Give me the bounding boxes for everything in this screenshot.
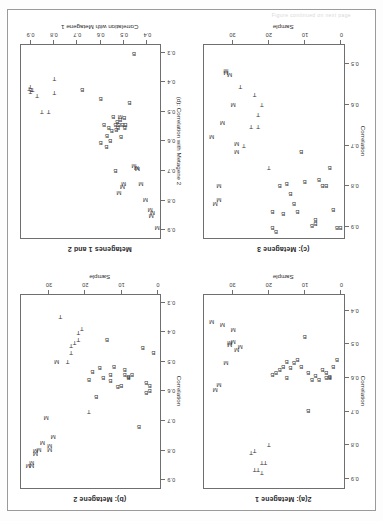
y-axis-tick	[162, 361, 166, 362]
y-axis-label-wrap: Correlation	[357, 294, 367, 489]
y-axis-tick	[345, 104, 349, 105]
data-point-B: B	[274, 228, 278, 235]
data-point-B: B	[108, 372, 112, 379]
data-point-M: M	[26, 463, 31, 470]
x-axis-tick-label: 0.6	[97, 32, 105, 38]
x-axis-tick	[121, 290, 122, 294]
data-point-B: B	[278, 182, 282, 189]
data-point-M: M	[40, 439, 45, 446]
data-point-M: M	[231, 102, 236, 109]
data-point-B: B	[98, 96, 102, 103]
plot-area: BBBBBBBBBBBBBBBBBBBBBBBBTTTTTTTTTTMMMMMM…	[20, 44, 162, 239]
x-axis-tick	[340, 290, 341, 294]
data-point-M: M	[118, 113, 123, 120]
data-point-T: T	[260, 460, 264, 467]
y-axis-tick	[162, 200, 166, 201]
data-point-B: B	[126, 375, 130, 382]
x-axis-tick-label: 20	[82, 282, 88, 288]
data-point-M: M	[231, 326, 236, 333]
data-point-T: T	[267, 164, 271, 171]
y-axis-tick	[162, 81, 166, 82]
data-point-T: T	[66, 359, 70, 366]
data-point-B: B	[112, 363, 116, 370]
y-axis-tick	[345, 63, 349, 64]
data-point-B: B	[285, 375, 289, 382]
plot-area: BBBBBBBBBBBBBBBBBBBBBBBTTTTTTTTMMMMMMMMM…	[204, 294, 346, 489]
y-axis-tick	[162, 52, 166, 53]
data-point-M: M	[216, 182, 221, 189]
x-axis-tick	[340, 40, 341, 44]
data-point-M: M	[148, 207, 153, 214]
data-point-M: M	[220, 120, 225, 127]
data-point-B: B	[331, 363, 335, 370]
scatter-panel-d: Metagenes 1 and 2BBBBBBBBBBBBBBBBBBBBBBB…	[8, 10, 192, 260]
data-point-T: T	[76, 337, 80, 344]
x-axis-tick-label: 0.8	[50, 32, 58, 38]
data-point-T: T	[256, 112, 260, 119]
y-axis-label: Correlation	[176, 376, 183, 406]
data-point-M: M	[143, 197, 148, 204]
data-point-T: T	[87, 408, 91, 415]
data-point-M: M	[33, 451, 38, 458]
x-axis-tick	[268, 40, 269, 44]
data-point-B: B	[313, 216, 317, 223]
data-point-T: T	[256, 124, 260, 131]
x-axis-tick	[100, 40, 101, 44]
data-point-M: M	[213, 200, 218, 207]
x-axis-tick-label: 0	[340, 282, 343, 288]
grid-cell-panel-d: Metagenes 1 and 2BBBBBBBBBBBBBBBBBBBBBBB…	[8, 10, 192, 260]
data-point-B: B	[281, 363, 285, 370]
data-point-B: B	[105, 337, 109, 344]
data-point-B: B	[295, 356, 299, 363]
data-point-B: B	[116, 384, 120, 391]
data-point-M: M	[138, 180, 143, 187]
data-point-B: B	[148, 388, 152, 395]
data-point-M: M	[223, 360, 228, 367]
data-point-B: B	[285, 359, 289, 366]
x-axis-tick	[30, 40, 31, 44]
x-axis-tick-label: 10	[118, 282, 124, 288]
data-point-B: B	[299, 363, 303, 370]
data-point-M: M	[234, 346, 239, 353]
data-point-B: B	[130, 372, 134, 379]
data-point-B: B	[295, 208, 299, 215]
figure-outer-frame: Figure continued on next page 2(a): Meta…	[7, 9, 376, 511]
data-point-B: B	[144, 379, 148, 386]
data-point-T: T	[253, 466, 257, 473]
x-axis-tick	[53, 40, 54, 44]
x-axis-tick-label: 30	[229, 32, 235, 38]
data-point-M: M	[234, 148, 239, 155]
data-point-B: B	[98, 365, 102, 372]
data-point-B: B	[288, 190, 292, 197]
data-point-B: B	[335, 224, 339, 231]
x-axis-tick	[146, 40, 147, 44]
x-axis-tick-label: 30	[46, 282, 52, 288]
data-point-M: M	[234, 140, 239, 147]
panel-title: (c): Metagene 3	[192, 246, 376, 253]
data-point-B: B	[299, 148, 303, 155]
y-axis-tick	[162, 302, 166, 303]
x-axis-tick-label: 0.4	[144, 32, 152, 38]
data-point-B: B	[303, 178, 307, 185]
y-axis-label: Correlation	[360, 376, 367, 406]
data-point-B: B	[105, 132, 109, 139]
x-axis-label: Correlation with Metagene 1	[8, 24, 192, 31]
y-axis-tick	[345, 145, 349, 146]
x-axis-tick-label: 0.9	[27, 32, 35, 38]
data-point-T: T	[35, 93, 39, 100]
y-axis-tick	[345, 226, 349, 227]
page-rotation-wrapper: Figure continued on next page 2(a): Meta…	[0, 0, 383, 521]
data-point-B: B	[317, 376, 321, 383]
y-axis-tick	[162, 391, 166, 392]
y-axis-tick	[162, 479, 166, 480]
data-point-B: B	[306, 370, 310, 377]
data-point-B: B	[335, 356, 339, 363]
y-axis-tick	[162, 229, 166, 230]
x-axis-tick	[304, 40, 305, 44]
data-point-T: T	[242, 142, 246, 149]
data-point-T: T	[40, 109, 44, 116]
data-point-B: B	[338, 224, 342, 231]
panel-title: (b): Metagene 2	[8, 496, 192, 503]
y-axis-tick	[162, 111, 166, 112]
data-point-B: B	[328, 375, 332, 382]
